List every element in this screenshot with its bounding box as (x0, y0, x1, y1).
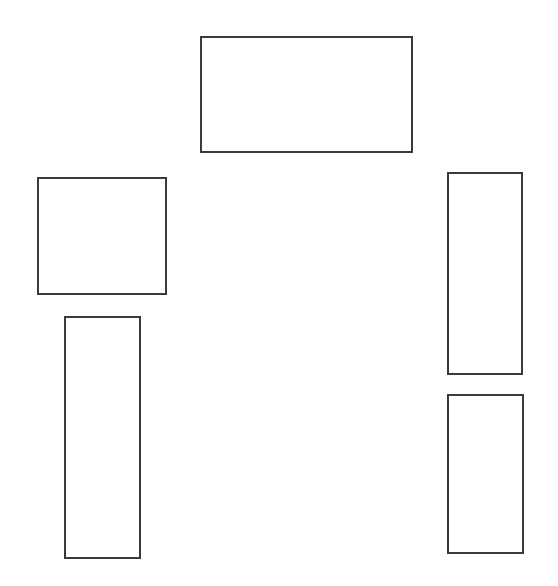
top-center-rectangle (200, 36, 413, 153)
left-square (37, 177, 167, 295)
left-tall-rectangle (64, 316, 141, 559)
right-lower-rectangle (447, 394, 524, 554)
diagram-canvas (0, 0, 558, 586)
right-upper-rectangle (447, 172, 523, 375)
